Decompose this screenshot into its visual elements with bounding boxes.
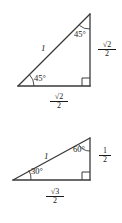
vertical-leg-denominator-top: 2: [98, 50, 116, 58]
left-angle-label-bottom: 30°: [31, 167, 43, 176]
vertical-leg-label-bottom: 1 2: [99, 147, 111, 165]
left-angle-label-top: 45°: [34, 74, 46, 83]
base-leg-label-bottom: √3 2: [46, 188, 64, 206]
vertical-leg-label-top: √2 2: [98, 41, 116, 59]
apex-angle-label-top: 45°: [74, 30, 86, 39]
special-right-triangles-figure: 1 45° 45° √2 2 √2 2 1 60° 30° 1 2 √3: [0, 0, 122, 223]
base-leg-label-top: √2 2: [50, 93, 68, 111]
base-leg-denominator-top: 2: [50, 102, 68, 110]
base-leg-denominator-bottom: 2: [46, 197, 64, 205]
label-layer: 1 45° 45° √2 2 √2 2 1 60° 30° 1 2 √3: [0, 0, 122, 223]
hypotenuse-label-bottom: 1: [44, 152, 49, 161]
vertical-leg-denominator-bottom: 2: [99, 156, 111, 164]
apex-angle-label-bottom: 60°: [73, 145, 85, 154]
hypotenuse-label-top: 1: [41, 44, 46, 53]
